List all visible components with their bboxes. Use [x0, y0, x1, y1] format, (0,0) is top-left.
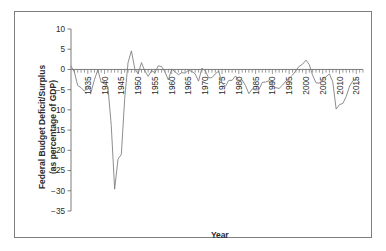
y-axis-tick-label: 10 — [56, 25, 66, 34]
y-axis-tick-label: −20 — [51, 146, 65, 155]
x-axis-tick-label: 2015 — [352, 76, 361, 95]
x-axis-tick-label: 1970 — [201, 76, 210, 95]
x-axis-tick-label: 1995 — [285, 76, 294, 95]
y-axis-tick-label: −35 — [51, 207, 65, 216]
y-axis-tick-label: −30 — [51, 187, 65, 196]
y-axis-tick-label: −25 — [51, 166, 65, 175]
x-axis-tick-label: 2010 — [336, 76, 345, 95]
x-axis-tick-label-group: 1965 — [184, 76, 193, 95]
x-axis-tick-label: 1955 — [151, 76, 160, 95]
y-axis-tick-label: −10 — [51, 106, 65, 115]
y-axis-tick-label: −5 — [56, 86, 66, 95]
line-chart-plot: 1050−5−10−15−20−25−30−351935194019451950… — [15, 12, 373, 239]
figure-border: Federal Budget Deficit/Surplus (as perce… — [14, 11, 372, 238]
chart-figure: Federal Budget Deficit/Surplus (as perce… — [0, 0, 386, 251]
x-axis-tick-label-group: 1980 — [235, 76, 244, 95]
x-axis-tick-label: 1965 — [184, 76, 193, 95]
x-axis-tick-label: 1985 — [252, 76, 261, 95]
x-axis-tick-label-group: 2010 — [336, 76, 345, 95]
y-axis-tick-label: 0 — [60, 65, 65, 74]
y-axis-tick-label: 5 — [60, 45, 65, 54]
x-axis-tick-label-group: 2000 — [302, 76, 311, 95]
y-axis-tick-label: −15 — [51, 126, 65, 135]
x-axis-tick-label: 1980 — [235, 76, 244, 95]
x-axis-tick-label: 2000 — [302, 76, 311, 95]
x-axis-tick-label-group: 1970 — [201, 76, 210, 95]
x-axis-tick-label: 1950 — [134, 76, 143, 95]
x-axis-tick-label-group: 1995 — [285, 76, 294, 95]
x-axis-tick-label-group: 1985 — [252, 76, 261, 95]
x-axis-tick-label-group: 1950 — [134, 76, 143, 95]
x-axis-tick-label-group: 1955 — [151, 76, 160, 95]
x-axis-tick-label-group: 2015 — [352, 76, 361, 95]
